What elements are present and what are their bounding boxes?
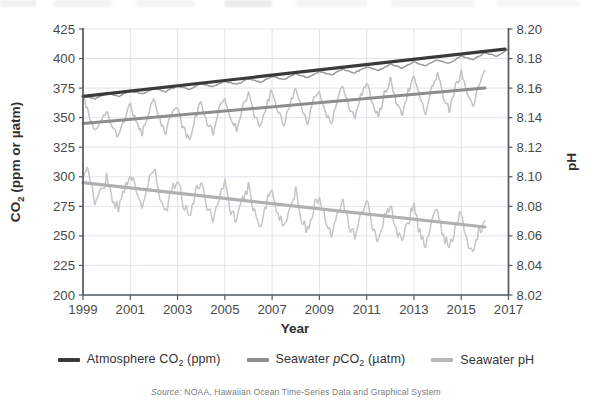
chart-legend: Atmosphere CO2 (ppm)Seawater pCO2 (µatm)…: [0, 352, 592, 368]
y-left-tick-label: 425: [53, 22, 75, 37]
y-right-tick-label: 8.08: [517, 199, 543, 214]
source-text: NOAA, Hawaiian Ocean Time-Series Data an…: [182, 387, 441, 397]
y-right-axis-title: pH: [564, 153, 579, 171]
y-right-tick-label: 8.04: [517, 258, 543, 273]
gridlines-group: [83, 29, 509, 295]
y-left-tick-label: 275: [53, 199, 75, 214]
figure-ocean-acidification: 4254003753503253002752502252008.208.188.…: [0, 0, 592, 413]
y-right-tick-label: 8.18: [517, 51, 543, 66]
legend-label-atmosphere-co2: Atmosphere CO2 (ppm): [87, 352, 221, 368]
axes-group: [79, 28, 513, 300]
source-keyword: Source:: [151, 387, 182, 397]
y-right-tick-label: 8.16: [517, 81, 543, 96]
legend-item-atmosphere-co2[interactable]: Atmosphere CO2 (ppm): [58, 352, 221, 368]
legend-label-seawater-ph: Seawater pH: [460, 353, 534, 367]
y-left-tick-label: 400: [53, 51, 75, 66]
legend-swatch-seawater-pco2: [247, 358, 269, 362]
y-left-tick-label: 375: [53, 81, 75, 96]
x-tick-label: 2017: [494, 302, 523, 317]
x-tick-label: 1999: [68, 302, 97, 317]
y-left-tick-label: 350: [53, 110, 75, 125]
y-left-tick-label: 200: [53, 288, 75, 303]
y-right-tick-label: 8.20: [517, 22, 543, 37]
y-left-tick-label: 325: [53, 140, 75, 155]
y-right-tick-label: 8.14: [517, 110, 543, 125]
x-tick-label: 2003: [163, 302, 192, 317]
legend-swatch-atmosphere-co2: [58, 358, 80, 362]
tick-labels-group: 4254003753503253002752502252008.208.188.…: [53, 22, 542, 317]
x-tick-label: 2001: [116, 302, 145, 317]
x-tick-label: 2005: [210, 302, 239, 317]
y-left-tick-label: 300: [53, 169, 75, 184]
x-tick-label: 2015: [447, 302, 476, 317]
x-tick-label: 2007: [257, 302, 286, 317]
legend-item-seawater-ph[interactable]: Seawater pH: [431, 353, 534, 367]
y-right-tick-label: 8.06: [517, 228, 543, 243]
legend-swatch-seawater-ph: [431, 358, 453, 362]
y-right-tick-label: 8.12: [517, 140, 543, 155]
legend-label-seawater-pco2: Seawater pCO2 (µatm): [276, 352, 406, 368]
legend-item-seawater-pco2[interactable]: Seawater pCO2 (µatm): [247, 352, 406, 368]
y-left-tick-label: 250: [53, 228, 75, 243]
x-tick-label: 2011: [352, 302, 380, 317]
source-note: Source: NOAA, Hawaiian Ocean Time-Series…: [0, 387, 592, 397]
x-tick-label: 2013: [399, 302, 428, 317]
y-right-tick-label: 8.02: [517, 288, 543, 303]
y-left-tick-label: 225: [53, 258, 75, 273]
series-seawater-ph-observed: [83, 167, 485, 251]
x-tick-label: 2009: [305, 302, 334, 317]
y-right-tick-label: 8.10: [517, 169, 543, 184]
x-axis-title: Year: [281, 321, 310, 336]
series-group: [83, 49, 509, 251]
y-left-axis-title: CO2 (ppm or µatm): [8, 102, 26, 222]
